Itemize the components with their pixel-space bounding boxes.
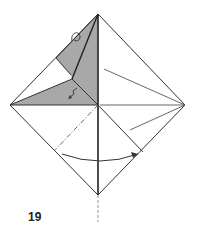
step-number: 19 (28, 210, 41, 224)
center-to-lower-right-edge (98, 105, 143, 152)
right-crease-lower (130, 105, 185, 130)
origami-diagram (0, 0, 200, 229)
mountain-fold-line (55, 105, 98, 150)
fold-over-arrow (62, 154, 138, 161)
right-crease-upper (104, 69, 185, 105)
